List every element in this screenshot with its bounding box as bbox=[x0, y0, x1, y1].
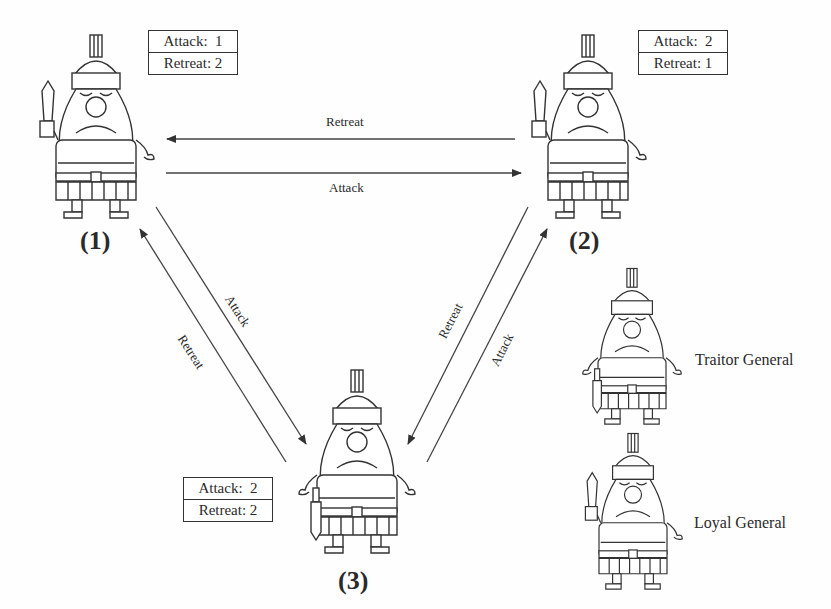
retreat-label: Retreat: bbox=[654, 55, 701, 71]
attack-count-row: Attack: 1 bbox=[149, 31, 237, 52]
retreat-count: 1 bbox=[705, 55, 713, 71]
legend-loyal-label: Loyal General bbox=[694, 514, 786, 532]
byzantine-generals-diagram: Retreat Attack Attack Retreat Retreat At… bbox=[0, 0, 831, 609]
attack-label: Attack: bbox=[653, 33, 697, 49]
retreat-count-row: Retreat: 2 bbox=[149, 52, 237, 74]
retreat-label: Retreat: bbox=[164, 55, 211, 71]
attack-count: 1 bbox=[215, 33, 223, 49]
general-1-figure bbox=[40, 35, 154, 218]
attack-count: 2 bbox=[250, 480, 258, 496]
vote-box-general-1: Attack: 1 Retreat: 2 bbox=[148, 30, 238, 75]
retreat-count-row: Retreat: 1 bbox=[639, 52, 727, 74]
retreat-count: 2 bbox=[250, 502, 258, 518]
attack-count-row: Attack: 2 bbox=[184, 478, 272, 499]
general-1-label: (1) bbox=[80, 226, 110, 256]
legend-loyal-figure bbox=[585, 434, 682, 590]
legend-traitor-figure bbox=[583, 269, 682, 425]
retreat-count: 2 bbox=[215, 55, 223, 71]
legend-traitor-label: Traitor General bbox=[695, 351, 794, 369]
general-3-figure bbox=[299, 370, 415, 553]
vote-box-general-2: Attack: 2 Retreat: 1 bbox=[638, 30, 728, 75]
retreat-count-row: Retreat: 2 bbox=[184, 499, 272, 521]
general-2-label: (2) bbox=[569, 226, 599, 256]
retreat-label: Retreat: bbox=[199, 502, 246, 518]
general-2-figure bbox=[532, 35, 646, 218]
attack-count-row: Attack: 2 bbox=[639, 31, 727, 52]
attack-label: Attack: bbox=[163, 33, 207, 49]
attack-label: Attack: bbox=[198, 480, 242, 496]
attack-count: 2 bbox=[705, 33, 713, 49]
general-3-label: (3) bbox=[338, 566, 368, 596]
vote-box-general-3: Attack: 2 Retreat: 2 bbox=[183, 477, 273, 522]
